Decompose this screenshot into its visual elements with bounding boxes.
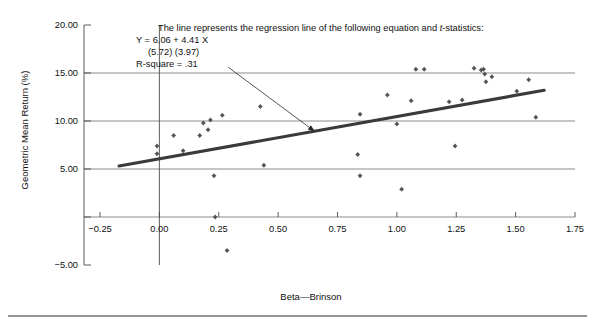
data-point	[394, 121, 399, 126]
data-point	[358, 112, 363, 117]
regression-line-path	[119, 90, 544, 166]
x-tick-label: 0.75	[328, 224, 346, 234]
annotation-arrow	[228, 67, 315, 131]
x-tick-label: 1.50	[507, 224, 525, 234]
x-tick-label: 1.25	[447, 224, 465, 234]
annotation-line-4: R-square = .31	[136, 59, 198, 69]
data-point	[399, 187, 404, 192]
data-point	[213, 215, 218, 220]
x-tick-label: 0.25	[210, 224, 228, 234]
y-tick-label: 15.00	[55, 68, 78, 78]
data-point	[483, 79, 488, 84]
y-axis-label: Geometric Mean Return (%)	[19, 71, 30, 190]
data-point	[460, 97, 465, 102]
data-point	[155, 143, 160, 148]
data-point	[225, 248, 230, 253]
data-point	[171, 133, 176, 138]
data-point	[206, 127, 211, 132]
data-point	[413, 67, 418, 72]
arrow-shaft	[228, 67, 315, 131]
annotation-line-3: (5.72) (3.97)	[148, 47, 199, 57]
data-point	[181, 148, 186, 153]
data-point	[422, 67, 427, 72]
tick-labels-group: −5.005.0010.0015.0020.00−0.250.000.250.5…	[54, 20, 584, 270]
data-point	[197, 133, 202, 138]
scatter-plot: −5.005.0010.0015.0020.00−0.250.000.250.5…	[0, 0, 595, 326]
data-point	[526, 77, 531, 82]
data-point	[212, 173, 217, 178]
data-point	[385, 93, 390, 98]
annotation-line-1: The line represents the regression line …	[158, 23, 484, 33]
data-point	[482, 71, 487, 76]
data-point	[472, 66, 477, 71]
x-tick-label: 1.00	[388, 224, 406, 234]
data-point	[514, 89, 519, 94]
data-point	[220, 113, 225, 118]
data-point	[453, 143, 458, 148]
x-axis-label: Beta—Brinson	[280, 291, 341, 302]
annotation-line-2: Y = 6.06 + 4.41 X	[136, 35, 208, 45]
data-point	[447, 99, 452, 104]
y-tick-label: 5.00	[60, 164, 78, 174]
data-point	[358, 173, 363, 178]
y-tick-label: 10.00	[55, 116, 78, 126]
y-tick-label: 20.00	[55, 20, 78, 30]
data-point	[258, 104, 263, 109]
x-tick-label: 0.00	[150, 224, 168, 234]
regression-line	[119, 90, 544, 166]
y-tick-label: −5.00	[54, 260, 78, 270]
data-point	[409, 98, 414, 103]
x-tick-label: 1.75	[566, 224, 584, 234]
data-point	[261, 163, 266, 168]
figure-container: −5.005.0010.0015.0020.00−0.250.000.250.5…	[0, 0, 595, 326]
data-point	[533, 115, 538, 120]
data-point	[489, 74, 494, 79]
data-point	[155, 151, 160, 156]
data-point	[208, 118, 213, 123]
x-tick-label: 0.50	[269, 224, 287, 234]
data-point	[355, 152, 360, 157]
x-tick-label: −0.25	[88, 224, 112, 234]
